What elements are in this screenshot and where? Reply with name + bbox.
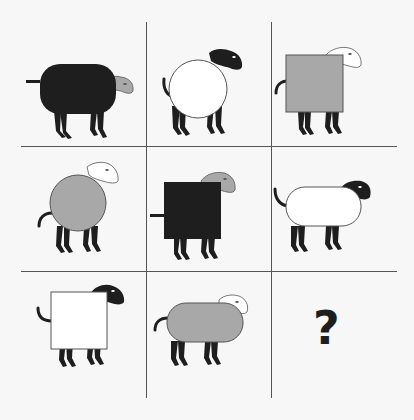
cell-r0-c0 — [21, 21, 146, 146]
sheep-white-body-black-head-icon — [146, 21, 271, 146]
cell-r2-c2-missing: ? — [271, 271, 396, 396]
sheep-gray-body-white-head-icon — [21, 146, 146, 271]
cell-r0-c2 — [271, 21, 396, 146]
cell-r0-c1 — [146, 21, 271, 146]
question-mark: ? — [313, 305, 340, 351]
sheep-white-body-black-head-icon — [21, 271, 146, 396]
sheep-white-body-black-head-icon — [271, 146, 396, 271]
cell-r1-c1 — [146, 146, 271, 271]
sheep-gray-body-white-head-icon — [271, 21, 396, 146]
cell-r1-c2 — [271, 146, 396, 271]
cell-r2-c0 — [21, 271, 146, 396]
sheep-gray-body-white-head-icon — [146, 271, 271, 396]
cell-r1-c0 — [21, 146, 146, 271]
sheep-black-body-gray-head-icon — [146, 146, 271, 271]
cell-r2-c1 — [146, 271, 271, 396]
sheep-black-body-gray-head-icon — [21, 21, 146, 146]
